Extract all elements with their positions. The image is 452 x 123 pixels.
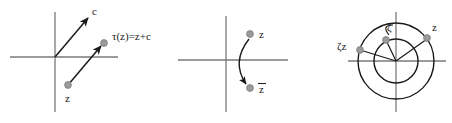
zeta-label: ζ (387, 21, 392, 34)
z-point (424, 35, 431, 42)
z-bar-label: z (259, 83, 264, 95)
conjugate-arrow (239, 39, 249, 84)
translation-vector-arrow (68, 46, 101, 85)
panel-translation: c z τ(z)=z+c (10, 5, 151, 112)
c-vector-arrow (55, 18, 88, 57)
panel-conjugation: z z (178, 16, 288, 112)
panel-rotation: z ζ ζz (337, 12, 446, 112)
z-label: z (432, 21, 437, 33)
tau-z-label: τ(z)=z+c (112, 30, 151, 43)
z-label: z (65, 92, 70, 104)
figure-canvas: c z τ(z)=z+c z z (0, 0, 452, 123)
z-point (247, 31, 254, 38)
complex-plane-figure: c z τ(z)=z+c z z (0, 0, 452, 123)
z-bar-label-group: z (258, 83, 266, 95)
c-label: c (92, 5, 97, 17)
zeta-z-point (357, 47, 364, 54)
radius-to-z (396, 39, 427, 61)
radius-to-zeta-z (360, 50, 396, 61)
zeta-point (383, 37, 390, 44)
z-label: z (259, 28, 264, 40)
z-bar-point (247, 85, 254, 92)
tau-z-point (101, 40, 108, 47)
z-point (65, 82, 72, 89)
zeta-z-label: ζz (337, 40, 347, 53)
